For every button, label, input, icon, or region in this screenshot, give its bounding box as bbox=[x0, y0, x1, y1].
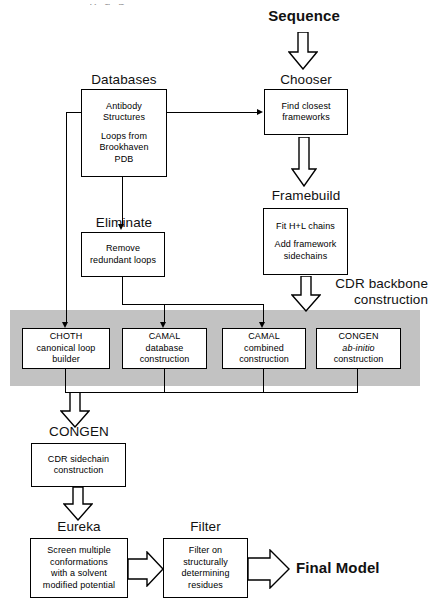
filter-line-2: structurally bbox=[183, 557, 228, 569]
congen-abinitio-line-1: CONGEN bbox=[338, 331, 378, 343]
connector-bus-to-camal-database bbox=[164, 304, 165, 324]
databases-line-1: Antibody bbox=[106, 101, 142, 113]
arrow-congen-to-eureka bbox=[63, 487, 93, 521]
databases-line-5: PDB bbox=[115, 154, 134, 166]
filter-line-3: determining bbox=[181, 568, 229, 580]
camal-combined-line-3: construction bbox=[239, 354, 289, 366]
filter-line-4: residues bbox=[188, 580, 223, 592]
filter-line-1: Filter on bbox=[189, 545, 222, 557]
filter-caption: Filter bbox=[163, 519, 248, 534]
connector-databases-down-to-choth bbox=[66, 112, 67, 324]
choth-line-2: canonical loop bbox=[37, 343, 96, 355]
connector-builders-merge-bus bbox=[65, 392, 358, 393]
databases-line-2: Structures bbox=[103, 112, 145, 124]
congen-abinitio-line-3: construction bbox=[334, 354, 384, 366]
eliminate-line-1: Remove bbox=[106, 243, 140, 255]
congen-sidechain-line-1: CDR sidechain bbox=[48, 454, 109, 466]
arrow-chooser-to-framebuild bbox=[291, 137, 317, 187]
filter-box: Filter on structurally determining resid… bbox=[163, 538, 248, 598]
databases-line-3: Loops from bbox=[101, 131, 147, 143]
camal-combined-line-1: CAMAL bbox=[248, 331, 280, 343]
databases-caption: Databases bbox=[81, 72, 167, 87]
camal-database-line-3: construction bbox=[140, 354, 190, 366]
databases-box: Antibody Structures Loops from Brookhave… bbox=[81, 89, 167, 177]
connector-camal-combined-down bbox=[263, 369, 264, 392]
connector-eliminate-down bbox=[122, 277, 123, 304]
clipped-caption-remnant: y g p bbox=[90, 0, 340, 5]
chooser-line-1: Find closest bbox=[281, 101, 330, 113]
chooser-line-2: frameworks bbox=[282, 112, 330, 124]
sequence-label: Sequence bbox=[259, 8, 349, 23]
connector-camal-database-down bbox=[164, 369, 165, 392]
framebuild-line-1: Fit H+L chains bbox=[276, 221, 335, 233]
eureka-line-3: with a solvent bbox=[51, 568, 107, 580]
final-model-label: Final Model bbox=[296, 560, 426, 575]
connector-eliminate-bus bbox=[122, 304, 264, 305]
choth-box: CHOTH canonical loop builder bbox=[22, 328, 110, 369]
framebuild-line-3: sidechains bbox=[284, 251, 328, 263]
arrow-builders-to-congen bbox=[60, 392, 90, 428]
connector-congen-abinitio-down bbox=[357, 369, 358, 392]
camal-database-line-1: CAMAL bbox=[149, 331, 181, 343]
eliminate-line-2: redundant loops bbox=[90, 255, 156, 267]
framebuild-line-2: Add framework bbox=[275, 239, 337, 251]
arrow-eureka-to-filter bbox=[128, 551, 164, 587]
eureka-caption: Eureka bbox=[30, 519, 128, 534]
camal-combined-box: CAMAL combined construction bbox=[222, 328, 306, 369]
connector-bus-to-camal-combined bbox=[263, 304, 264, 324]
congen-sidechain-box: CDR sidechain construction bbox=[31, 443, 126, 487]
arrow-filter-to-final-model bbox=[248, 549, 290, 589]
eliminate-caption: Eliminate bbox=[81, 215, 167, 230]
flowchart-canvas: y g p Sequence Databases Antibody Struct… bbox=[0, 0, 438, 608]
cdr-backbone-label-line2: construction bbox=[354, 292, 428, 307]
congen-abinitio-box: CONGEN ab-initio construction bbox=[316, 328, 401, 369]
camal-database-line-2: database bbox=[146, 343, 184, 355]
choth-line-3: builder bbox=[52, 354, 80, 366]
congen-abinitio-line-2: ab-initio bbox=[342, 343, 374, 355]
chooser-box: Find closest frameworks bbox=[264, 89, 348, 135]
framebuild-box: Fit H+L chains Add framework sidechains bbox=[263, 208, 348, 275]
connector-databases-left-out bbox=[66, 112, 82, 113]
eureka-line-4: modified potential bbox=[43, 580, 115, 592]
congen-sidechain-caption: CONGEN bbox=[31, 424, 127, 439]
databases-line-4: Brookhaven bbox=[99, 142, 148, 154]
camal-database-box: CAMAL database construction bbox=[122, 328, 207, 369]
arrow-sequence-to-chooser bbox=[288, 32, 318, 70]
congen-sidechain-line-2: construction bbox=[54, 465, 104, 477]
connector-databases-to-chooser bbox=[167, 112, 258, 113]
camal-combined-line-2: combined bbox=[244, 343, 284, 355]
eureka-line-2: conformations bbox=[50, 557, 108, 569]
eureka-line-1: Screen multiple bbox=[47, 545, 111, 557]
connector-choth-down bbox=[65, 369, 66, 392]
framebuild-caption: Framebuild bbox=[258, 188, 354, 203]
cdr-backbone-label-line1: CDR backbone bbox=[335, 276, 428, 291]
choth-line-1: CHOTH bbox=[50, 331, 83, 343]
chooser-caption: Chooser bbox=[264, 72, 348, 87]
eureka-box: Screen multiple conformations with a sol… bbox=[30, 538, 128, 598]
eliminate-box: Remove redundant loops bbox=[81, 232, 165, 277]
cdr-backbone-label: CDR backboneconstruction bbox=[308, 276, 428, 308]
arrowhead-databases-to-chooser bbox=[257, 109, 263, 115]
